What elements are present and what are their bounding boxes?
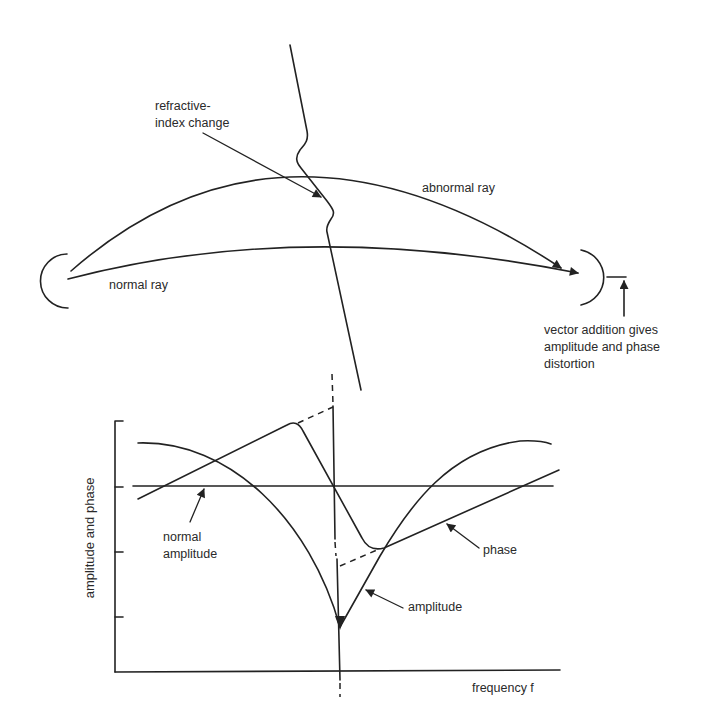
y-axis-label: amplitude and phase (82, 478, 97, 599)
x-axis (115, 670, 560, 672)
normal-amplitude-label-line1: normal (163, 530, 201, 544)
phase-arrow-icon (447, 524, 479, 548)
normal-ray (68, 247, 578, 279)
amplitude-phase-plot: amplitude and phase frequency f normal a… (82, 374, 560, 697)
resonance-line-dashed-mid (335, 542, 336, 556)
abnormal-ray-label: abnormal ray (422, 181, 496, 195)
refractive-index-label-line2: index change (155, 116, 229, 130)
y-axis (115, 421, 123, 672)
resonance-line-dashed-top (332, 374, 333, 404)
resonance-line (333, 406, 335, 539)
normal-ray-label: normal ray (109, 278, 169, 292)
signal-distortion-figure: refractive- index change abnormal ray no… (0, 0, 714, 728)
x-axis-label: frequency f (472, 681, 534, 695)
amplitude-arrow-icon (366, 590, 403, 608)
vector-addition-label-line2: amplitude and phase (544, 340, 660, 354)
normal-amplitude-label-line2: amplitude (163, 547, 217, 561)
phase-label: phase (483, 543, 517, 557)
normal-amplitude-arrow-icon (190, 489, 204, 522)
vector-addition-label-line3: distortion (544, 357, 595, 371)
figure-canvas: refractive- index change abnormal ray no… (0, 0, 714, 728)
refractive-index-label-line1: refractive- (155, 99, 211, 113)
transmitter-antenna-icon (40, 254, 68, 308)
ray-diagram: refractive- index change abnormal ray no… (40, 45, 660, 390)
refractive-index-boundary (290, 45, 361, 390)
phase-extension-bottom (340, 550, 377, 566)
amplitude-minimum-marker (335, 616, 345, 630)
phase-extension-top (298, 407, 333, 423)
amplitude-label: amplitude (408, 600, 462, 614)
receiver-antenna-icon (581, 250, 604, 305)
vector-addition-label-line1: vector addition gives (544, 323, 658, 337)
